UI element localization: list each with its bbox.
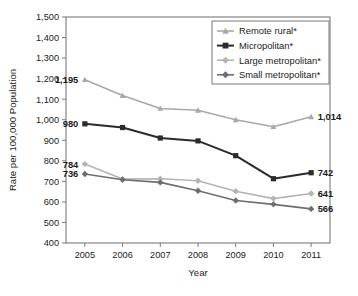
x-tick-label: 2009: [225, 250, 245, 260]
data-marker: [158, 135, 163, 140]
data-marker: [271, 176, 276, 181]
series-end-value-label: 742: [318, 167, 334, 178]
data-marker: [233, 153, 238, 158]
series-start-value-label: 736: [63, 168, 79, 179]
legend-item-label[interactable]: Small metropolitan*: [239, 69, 321, 80]
data-marker: [308, 206, 314, 212]
data-marker: [270, 195, 276, 201]
line-chart: 1,5001,4001,3001,2001,1001,0009008007006…: [0, 0, 358, 296]
legend-item-label[interactable]: Large metropolitan*: [239, 55, 321, 66]
series-end-value-label: 566: [318, 203, 334, 214]
data-marker: [195, 188, 201, 194]
x-axis-title: Year: [188, 267, 208, 278]
y-axis-title: Rate per 100,000 Population: [7, 69, 18, 191]
legend-item-label[interactable]: Remote rural*: [239, 25, 297, 36]
data-marker: [309, 170, 314, 175]
y-tick-label: 1,400: [36, 33, 59, 43]
y-tick-label: 1,000: [36, 115, 59, 125]
data-marker: [270, 201, 276, 207]
legend-item-label[interactable]: Micropolitan*: [239, 40, 294, 51]
data-marker: [233, 188, 239, 194]
y-tick-label: 1,300: [36, 53, 59, 63]
y-tick-label: 900: [44, 136, 59, 146]
x-tick-label: 2011: [301, 250, 321, 260]
data-marker: [195, 178, 201, 184]
y-tick-label: 800: [44, 156, 59, 166]
series-line: [85, 124, 311, 179]
data-marker: [223, 43, 229, 49]
series-start-value-label: 980: [63, 118, 79, 129]
series-start-value-label: 1,195: [55, 74, 78, 85]
y-tick-label: 1,100: [36, 95, 59, 105]
y-tick-label: 700: [44, 177, 59, 187]
data-marker: [308, 114, 314, 119]
y-tick-label: 500: [44, 218, 59, 228]
x-tick-label: 2005: [75, 250, 95, 260]
data-marker: [82, 121, 87, 126]
x-tick-label: 2008: [188, 250, 208, 260]
y-tick-label: 400: [44, 238, 59, 248]
y-tick-label: 600: [44, 197, 59, 207]
x-tick-label: 2007: [150, 250, 170, 260]
data-marker: [308, 190, 314, 196]
y-tick-label: 1,500: [36, 12, 59, 22]
x-tick-label: 2006: [112, 250, 132, 260]
data-marker: [82, 77, 88, 82]
series-end-value-label: 1,014: [318, 111, 342, 122]
data-marker: [82, 171, 88, 177]
series-line: [85, 80, 311, 127]
data-marker: [157, 179, 163, 185]
x-tick-label: 2010: [263, 250, 283, 260]
data-marker: [195, 138, 200, 143]
data-marker: [233, 197, 239, 203]
data-marker: [82, 161, 88, 167]
chart-canvas: 1,5001,4001,3001,2001,1001,0009008007006…: [0, 0, 358, 296]
data-marker: [120, 125, 125, 130]
series-end-value-label: 641: [318, 188, 334, 199]
